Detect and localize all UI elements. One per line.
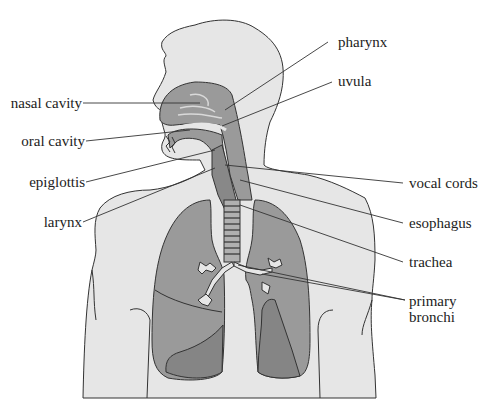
label-oral-cavity: oral cavity: [4, 133, 85, 149]
label-primary: primary: [409, 293, 456, 309]
label-uvula: uvula: [338, 73, 371, 89]
label-trachea: trachea: [409, 254, 452, 270]
label-vocal-cords: vocal cords: [409, 175, 478, 191]
label-primary-bronchi: primary bronchi: [409, 293, 456, 325]
trachea-shape: [224, 200, 240, 262]
label-esophagus: esophagus: [409, 215, 472, 231]
label-bronchi: bronchi: [409, 309, 456, 325]
label-epiglottis: epiglottis: [4, 174, 85, 190]
label-pharynx: pharynx: [338, 34, 387, 50]
respiratory-diagram: [0, 0, 487, 407]
label-larynx: larynx: [4, 214, 82, 230]
label-nasal-cavity: nasal cavity: [4, 95, 82, 111]
